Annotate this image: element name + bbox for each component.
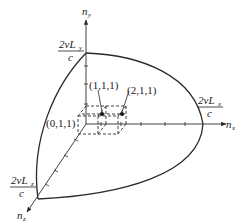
label-2-1-1: (2,1,1) (127, 84, 157, 97)
svg-text:2νL: 2νL (59, 38, 76, 50)
svg-text:c: c (68, 51, 73, 63)
octant-diagram: (1,1,1) (2,1,1) (0,1,1) n y n x n z 2νL … (0, 0, 237, 224)
svg-text:y: y (87, 11, 92, 19)
intercept-z: 2νL z c (10, 174, 36, 199)
point-1-1-1 (100, 112, 104, 116)
label-1-1-1: (1,1,1) (89, 79, 119, 92)
svg-text:z: z (22, 215, 26, 223)
leader-1-1-1 (98, 90, 102, 112)
svg-text:2νL: 2νL (198, 94, 215, 106)
svg-text:x: x (231, 124, 236, 132)
point-2-1-1 (120, 112, 124, 116)
svg-text:c: c (19, 187, 24, 199)
label-0-1-1: (0,1,1) (46, 117, 76, 130)
z-axis (27, 124, 86, 212)
svg-text:c: c (207, 107, 212, 119)
curve-x-to-z (38, 124, 203, 199)
y-axis-label: n y (82, 5, 92, 19)
svg-text:2νL: 2νL (11, 174, 28, 186)
z-axis-label: n z (17, 209, 26, 223)
x-axis-label: n x (226, 118, 236, 132)
